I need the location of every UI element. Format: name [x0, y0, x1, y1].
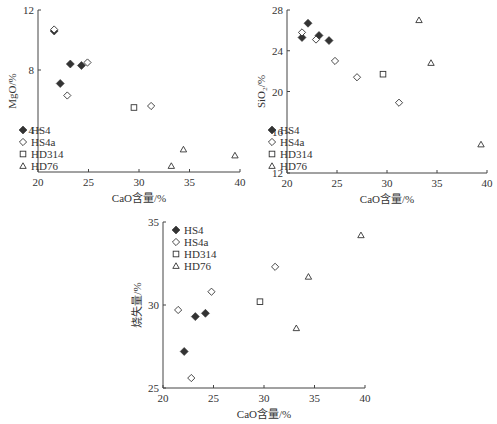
data-point-open-diamond-icon [175, 306, 182, 313]
data-point-filled-diamond-icon [325, 37, 333, 45]
legend-label: HD314 [280, 148, 313, 160]
y-axis-label: MgO/% [6, 73, 18, 108]
chart-canvas: 20253035404812CaO含量/%MgO/%HS4HS4aHD314HD… [0, 0, 497, 424]
data-point-open-square-icon [257, 299, 263, 305]
data-point-open-triangle-icon [358, 232, 364, 238]
y-tick-label: 25 [148, 382, 160, 394]
x-axis-label: CaO含量/% [360, 192, 414, 205]
series-hs4a [298, 29, 402, 106]
legend-open-triangle-icon [173, 263, 179, 269]
x-tick-label: 20 [33, 176, 45, 188]
data-point-filled-diamond-icon [304, 19, 312, 27]
legend-label: HS4 [31, 124, 51, 136]
y-axis-label: SiO₂/% [255, 75, 267, 108]
data-point-open-diamond-icon [272, 263, 279, 270]
y-tick-label: 12 [23, 4, 34, 16]
legend-label: HS4a [31, 136, 56, 148]
x-tick-label: 40 [235, 176, 247, 188]
loi-vs-cao-chart: 2025303540253035CaO含量/%烧失量/%HS4HS4aHD314… [131, 216, 371, 420]
legend-open-triangle-icon [20, 163, 26, 169]
x-tick-label: 35 [432, 177, 444, 189]
data-point-filled-diamond-icon [201, 309, 209, 317]
series-hs4 [180, 309, 209, 355]
x-axis-label: CaO含量/% [112, 191, 166, 204]
data-point-open-diamond-icon [148, 102, 155, 109]
series-hd76 [416, 17, 484, 147]
legend-label: HD76 [280, 160, 307, 172]
data-point-open-diamond-icon [395, 99, 402, 106]
legend-label: HS4a [184, 236, 209, 248]
x-tick-label: 40 [482, 177, 494, 189]
x-tick-label: 35 [184, 176, 196, 188]
x-tick-label: 40 [360, 392, 372, 404]
x-tick-label: 30 [134, 176, 146, 188]
series-hd314 [380, 71, 386, 77]
y-axis-label: 烧失量/% [131, 282, 143, 327]
x-tick-label: 35 [309, 392, 321, 404]
x-tick-label: 25 [208, 392, 220, 404]
x-tick-label: 25 [83, 176, 95, 188]
legend-label: HD76 [31, 160, 58, 172]
legend-label: HS4 [184, 224, 204, 236]
sio2-vs-cao-chart: 20253035401216202428CaO含量/%SiO₂/%HS4HS4a… [255, 4, 493, 205]
legend-open-diamond-icon [19, 138, 26, 145]
x-axis-label: CaO含量/% [237, 407, 291, 420]
x-tick-label: 20 [282, 177, 294, 189]
data-point-open-diamond-icon [188, 374, 195, 381]
series-hs4 [50, 27, 85, 88]
data-point-open-triangle-icon [232, 152, 238, 158]
data-point-open-diamond-icon [208, 288, 215, 295]
legend-open-diamond-icon [268, 138, 275, 145]
legend: HS4HS4aHD314HD76 [268, 124, 313, 172]
data-point-open-triangle-icon [293, 325, 299, 331]
data-point-open-triangle-icon [168, 163, 174, 169]
y-tick-label: 28 [272, 4, 284, 16]
mgo-vs-cao-chart: 20253035404812CaO含量/%MgO/%HS4HS4aHD314HD… [6, 4, 246, 204]
y-tick-label: 30 [148, 299, 160, 311]
x-tick-label: 25 [332, 177, 344, 189]
x-tick-label: 30 [259, 392, 271, 404]
legend-open-square-icon [173, 251, 179, 257]
data-point-open-triangle-icon [478, 141, 484, 147]
series-hd314 [257, 299, 263, 305]
legend-filled-diamond-icon [19, 126, 27, 134]
data-point-open-triangle-icon [305, 274, 311, 280]
legend: HS4HS4aHD314HD76 [172, 224, 217, 272]
data-point-filled-diamond-icon [56, 80, 64, 88]
legend-filled-diamond-icon [172, 226, 180, 234]
series-hs4a [51, 26, 155, 110]
data-point-open-square-icon [131, 105, 137, 111]
y-tick-label: 24 [272, 45, 284, 57]
y-tick-label: 20 [272, 86, 284, 98]
y-tick-label: 8 [29, 64, 35, 76]
data-point-open-triangle-icon [180, 146, 186, 152]
legend-label: HS4 [280, 124, 300, 136]
legend-label: HD314 [31, 148, 64, 160]
legend-label: HS4a [280, 136, 305, 148]
data-point-open-triangle-icon [416, 17, 422, 23]
data-point-open-diamond-icon [353, 74, 360, 81]
x-tick-label: 30 [382, 177, 394, 189]
legend: HS4HS4aHD314HD76 [19, 124, 64, 172]
legend-label: HD314 [184, 248, 217, 260]
data-point-open-diamond-icon [298, 29, 305, 36]
data-point-open-square-icon [380, 71, 386, 77]
data-point-filled-diamond-icon [180, 347, 188, 355]
data-point-open-diamond-icon [331, 57, 338, 64]
data-point-filled-diamond-icon [191, 313, 199, 321]
series-hd76 [168, 146, 238, 168]
x-tick-label: 20 [158, 392, 170, 404]
data-point-open-triangle-icon [428, 60, 434, 66]
legend-label: HD76 [184, 260, 211, 272]
data-point-filled-diamond-icon [66, 60, 74, 68]
series-hd76 [293, 232, 364, 331]
y-tick-label: 35 [148, 216, 160, 228]
data-point-open-diamond-icon [64, 92, 71, 99]
legend-open-triangle-icon [269, 163, 275, 169]
legend-open-square-icon [269, 151, 275, 157]
legend-open-square-icon [20, 151, 26, 157]
series-hd314 [131, 105, 137, 111]
legend-open-diamond-icon [172, 238, 179, 245]
series-hs4a [175, 263, 279, 381]
